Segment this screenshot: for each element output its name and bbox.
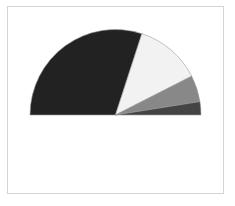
half-pie-chart — [0, 0, 235, 206]
pie-slices — [30, 29, 201, 115]
